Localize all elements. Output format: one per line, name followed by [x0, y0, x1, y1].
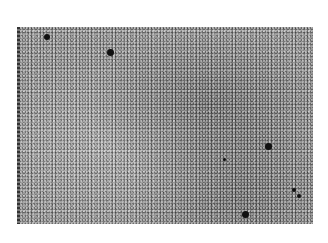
dark-dot: [223, 158, 226, 161]
dark-dot: [292, 188, 296, 192]
dark-dot: [44, 34, 50, 40]
dark-dot: [265, 143, 272, 150]
dark-dot: [107, 49, 114, 56]
dark-dot: [297, 194, 301, 198]
speckled-image: [17, 27, 313, 224]
dark-dot: [242, 211, 249, 218]
